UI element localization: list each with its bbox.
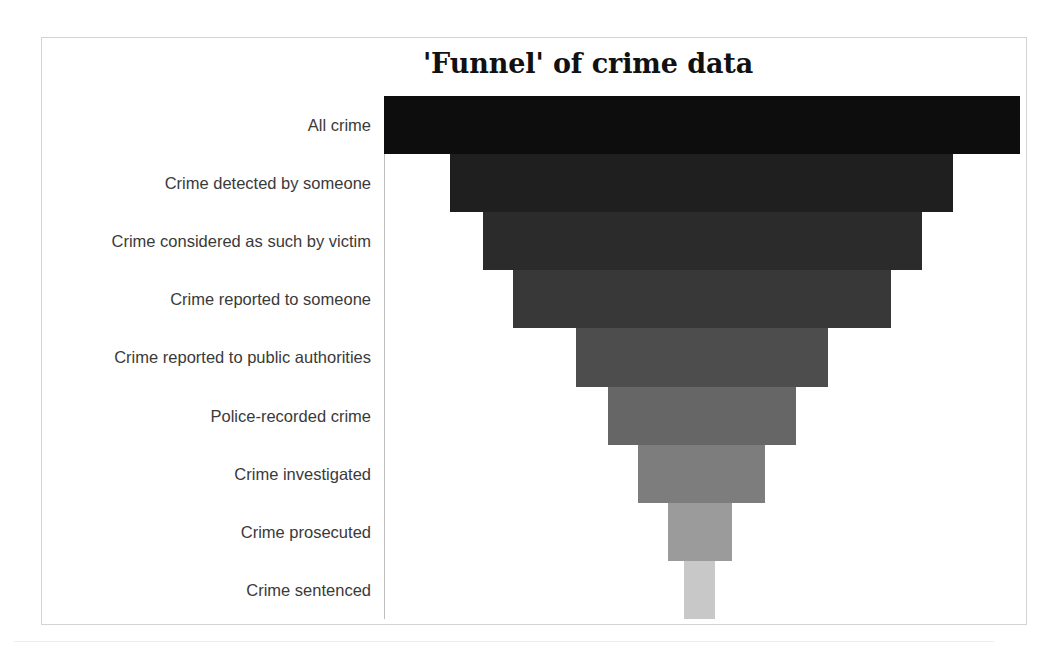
funnel-row: All crime (42, 96, 1026, 154)
funnel-row-label: Crime sentenced (246, 561, 371, 619)
funnel-row: Crime investigated (42, 445, 1026, 503)
funnel-row: Crime reported to public authorities (42, 328, 1026, 386)
funnel-row: Crime reported to someone (42, 270, 1026, 328)
funnel-bar (384, 96, 1020, 154)
chart-title: 'Funnel' of crime data (42, 48, 1026, 79)
funnel-row-label: All crime (308, 96, 371, 154)
funnel-row: Crime detected by someone (42, 154, 1026, 212)
funnel-row-label: Crime reported to public authorities (114, 328, 371, 386)
funnel-row-label: Crime prosecuted (241, 503, 371, 561)
funnel-bar (576, 328, 828, 386)
funnel-plot-area: All crimeCrime detected by someoneCrime … (42, 96, 1026, 619)
funnel-row: Police-recorded crime (42, 387, 1026, 445)
funnel-row-label: Crime investigated (234, 445, 371, 503)
funnel-row-label: Crime considered as such by victim (111, 212, 371, 270)
funnel-bar (483, 212, 922, 270)
funnel-bar (513, 270, 891, 328)
screenshot-canvas: 'Funnel' of crime data All crimeCrime de… (0, 0, 1064, 651)
funnel-bar (608, 387, 796, 445)
chart-title-text: 'Funnel' of crime data (423, 48, 753, 79)
funnel-bar (684, 561, 715, 619)
page-baseline-rule (14, 641, 994, 642)
funnel-row: Crime prosecuted (42, 503, 1026, 561)
funnel-row-label: Crime detected by someone (165, 154, 371, 212)
funnel-row: Crime sentenced (42, 561, 1026, 619)
funnel-bar (638, 445, 765, 503)
funnel-row-label: Crime reported to someone (170, 270, 371, 328)
funnel-chart-frame: 'Funnel' of crime data All crimeCrime de… (41, 37, 1027, 625)
funnel-row: Crime considered as such by victim (42, 212, 1026, 270)
funnel-bar (668, 503, 732, 561)
funnel-bar (450, 154, 953, 212)
funnel-row-label: Police-recorded crime (211, 387, 371, 445)
